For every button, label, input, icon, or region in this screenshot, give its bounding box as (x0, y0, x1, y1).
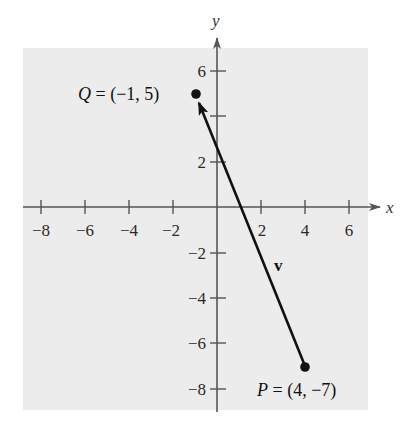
y-tick-label: −4 (188, 289, 207, 308)
point-q-label: Q = (−1, 5) (78, 84, 159, 105)
x-tick-label: −6 (76, 221, 94, 240)
point-q (191, 89, 201, 99)
plot-background (23, 48, 368, 410)
point-p-name: P (256, 380, 268, 400)
x-tick-label: −8 (32, 221, 50, 240)
x-tick-label: 4 (301, 221, 310, 240)
coordinate-plane: x y −8 −6 −4 −2 2 4 6 6 2 −2 −4 −6 −8 (0, 0, 409, 426)
y-tick-label: −6 (188, 334, 206, 353)
y-axis-label: y (210, 11, 220, 30)
x-axis-label: x (385, 198, 394, 217)
x-tick-label: −4 (120, 221, 139, 240)
x-tick-label: −2 (162, 221, 180, 240)
y-tick-label: −8 (188, 380, 206, 399)
y-tick-label: 6 (198, 62, 207, 81)
point-q-name: Q (78, 84, 91, 104)
x-tick-label: 6 (345, 221, 354, 240)
point-p-label: P = (4, −7) (256, 380, 336, 401)
y-tick-label: 2 (198, 153, 207, 172)
point-q-coords: (−1, 5) (110, 84, 159, 105)
vector-label: v (274, 256, 283, 275)
y-tick-label: −2 (188, 244, 206, 263)
point-p-coords: (4, −7) (287, 380, 336, 401)
point-p (300, 362, 310, 372)
x-tick-label: 2 (258, 221, 267, 240)
